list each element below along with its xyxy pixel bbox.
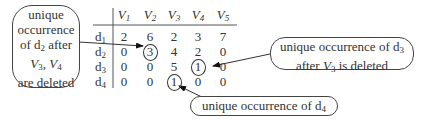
callout-d2-line-4: V3, V4 — [13, 56, 79, 75]
cell-d4-v2: 0 — [140, 74, 160, 90]
col-header-v4: V4 — [188, 7, 208, 26]
col-header-v3: V3 — [164, 7, 184, 26]
cell-d1-v2: 6 — [140, 29, 160, 45]
cell-d4-v5: 0 — [213, 74, 233, 90]
col-header-v1: V1 — [114, 7, 134, 26]
callout-d4: unique occurrence of d4 — [190, 96, 338, 116]
cell-d2-v4: 2 — [188, 44, 208, 60]
cell-d1-v1: 2 — [114, 29, 134, 45]
col-header-v5: V5 — [213, 7, 233, 26]
callout-d2-line-1: unique — [13, 7, 79, 22]
row-label-d4: d4 — [95, 74, 106, 93]
circle-d4-v3 — [167, 74, 182, 91]
callout-d4-line-1: unique occurrence of d4 — [191, 97, 337, 118]
callout-d2-line-5: are deleted — [13, 75, 79, 90]
callout-d3: unique occurrence of d3 after V3 is dele… — [270, 37, 414, 70]
cell-d1-v3: 2 — [164, 29, 184, 45]
cell-d2-v3: 4 — [164, 44, 184, 60]
cell-d3-v3: 5 — [164, 59, 184, 75]
callout-d3-line-2: after V3 is deleted — [271, 58, 413, 77]
callout-d2: unique occurrence of d2 after V3, V4 are… — [12, 5, 80, 88]
cell-d4-v1: 0 — [114, 74, 134, 90]
circle-d3-v4 — [191, 59, 206, 76]
cell-d3-v5: 0 — [213, 59, 233, 75]
cell-d2-v1: 0 — [114, 44, 134, 60]
cell-d1-v5: 7 — [213, 29, 233, 45]
cell-d1-v4: 3 — [188, 29, 208, 45]
callout-d2-line-3: of d2 after — [13, 37, 79, 56]
callout-d2-line-2: occurrence — [13, 22, 79, 37]
cell-d3-v2: 0 — [140, 59, 160, 75]
col-header-v2: V2 — [140, 7, 160, 26]
cell-d3-v1: 0 — [114, 59, 134, 75]
cell-d4-v4: 0 — [188, 74, 208, 90]
cell-d2-v5: 0 — [213, 44, 233, 60]
circle-d2-v2 — [143, 44, 158, 61]
callout-d3-line-1: unique occurrence of d3 — [271, 39, 413, 58]
